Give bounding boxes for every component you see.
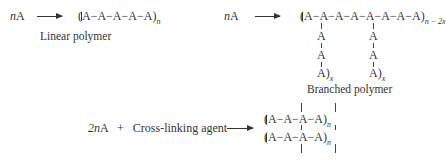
crosslink-bond-up-2 [335,103,336,112]
crosslink-chain-bottom: (A−A−A−A)n [264,131,331,145]
chain-top: (A−A−A−A) [264,112,327,126]
linear-arrow [37,16,62,17]
branch1-unit3: A)x [317,67,333,81]
crosslink-bond-mid-1 [301,125,302,130]
crosslinking-agent: Cross-linking agent [133,121,227,135]
chain-bottom-subscript: n [327,138,331,147]
crosslink-bond-mid-2 [335,125,336,130]
branched-reactant: nA [224,10,239,22]
linear-product: (A−A−A−A−A)n [78,10,160,24]
monomer: A [16,9,25,23]
branch-subscript: x [382,74,386,83]
branched-subscript: n − 2x [425,17,446,26]
plus-sign: + [117,121,124,135]
crosslink-bond-down-1 [301,144,302,153]
linear-subscript: n [156,17,160,26]
branch2-unit2: A [369,49,378,61]
chain-top-subscript: n [327,120,331,129]
monomer: A [230,9,239,23]
branched-chain: (A−A−A−A−A−A−A−A) [300,9,425,23]
crosslink-arrow [227,128,253,129]
branch2-unit3: A)x [369,67,385,81]
branch1-unit1: A [317,30,326,42]
branch1-unit2: A [317,49,326,61]
monomer: A [100,121,108,135]
linear-label: Linear polymer [40,30,111,42]
crosslink-bond-up-1 [301,103,302,112]
crosslink-reactants: 2nA + Cross-linking agent [88,122,227,134]
crosslink-bond-down-2 [335,144,336,153]
crosslink-chain-top: (A−A−A−A)n [264,113,331,127]
branch-end: A) [317,66,330,80]
branched-arrow [255,16,280,17]
branched-product: (A−A−A−A−A−A−A−A)n − 2x [300,10,446,24]
branch-end: A) [369,66,382,80]
linear-reactant: nA [10,10,25,22]
branch-subscript: x [330,74,334,83]
branch2-unit1: A [369,30,378,42]
branched-label: Branched polymer [307,83,392,95]
linear-chain: (A−A−A−A−A) [78,9,156,23]
coef: 2n [88,121,100,135]
chain-bottom: (A−A−A−A) [264,130,327,144]
